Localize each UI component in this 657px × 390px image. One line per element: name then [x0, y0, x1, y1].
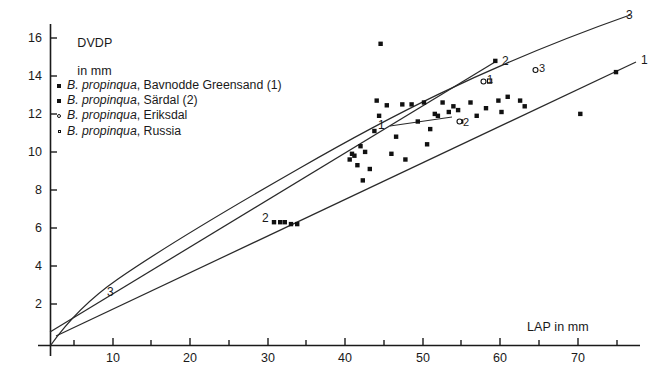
open-circle-icon [56, 108, 67, 123]
data-point [378, 42, 382, 46]
curve-label-3: 3 [107, 285, 114, 299]
x-axis-title: LAP in mm [527, 320, 589, 334]
x-tick-label-10: 10 [98, 351, 128, 365]
legend-label-eriksdal: B. propinqua, Eriksdal [67, 108, 187, 123]
data-point [523, 104, 527, 108]
data-point [428, 127, 432, 131]
data-point [372, 129, 376, 133]
y-tick-label-2: 2 [12, 297, 42, 311]
open-square-icon [56, 124, 67, 139]
data-point [518, 98, 522, 102]
data-point [403, 157, 407, 161]
data-point [506, 95, 510, 99]
data-point [355, 163, 359, 167]
data-point [416, 119, 420, 123]
data-point [295, 222, 299, 226]
x-tick-label-40: 40 [330, 351, 360, 365]
legend-item-eriksdal: B. propinqua, Eriksdal [56, 108, 282, 123]
data-point [283, 220, 287, 224]
data-point [578, 112, 582, 116]
x-tick-label-30: 30 [253, 351, 283, 365]
y-tick-label-4: 4 [12, 259, 42, 273]
legend-label-bavnodde-greensand: B. propinqua, Bavnodde Greensand (1) [67, 78, 282, 93]
data-point [451, 104, 455, 108]
data-point [363, 150, 367, 154]
legend-item-sardal: B. propinqua, Särdal (2) [56, 93, 282, 108]
y-tick-label-14: 14 [12, 69, 42, 83]
data-point [496, 98, 500, 102]
point-label-eriksdal-3: 3 [539, 62, 545, 74]
data-point [358, 144, 362, 148]
data-point [493, 59, 497, 63]
data-point [385, 103, 389, 107]
data-point [468, 100, 472, 104]
data-point [361, 178, 365, 182]
data-point [389, 152, 393, 156]
point-label-eriksdal-1: 1 [487, 73, 493, 85]
data-point [484, 106, 488, 110]
data-point [278, 220, 282, 224]
scatter-plot-figure: DVDP in mm LAP in mm 2 4 6 8 10 12 14 16… [0, 0, 657, 390]
filled-square-icon [56, 78, 67, 93]
legend-item-bavnodde-greensand: B. propinqua, Bavnodde Greensand (1) [56, 78, 282, 93]
data-point-open-circle [481, 79, 486, 84]
data-point [394, 135, 398, 139]
data-point [440, 100, 444, 104]
leader-line-1 [390, 117, 452, 126]
legend-species-name: B. propinqua [67, 124, 137, 138]
legend-item-russia: B. propinqua, Russia [56, 124, 282, 139]
data-point [289, 222, 293, 226]
x-tick-label-70: 70 [563, 351, 593, 365]
legend-label-russia: B. propinqua, Russia [67, 124, 181, 139]
data-point-open-circle [533, 68, 538, 73]
y-axis-title-line2: in mm [77, 64, 112, 78]
x-tick-label-50: 50 [408, 351, 438, 365]
legend-locality: , Russia [137, 124, 181, 138]
data-point [436, 114, 440, 118]
data-point [272, 220, 276, 224]
y-tick-label-12: 12 [12, 107, 42, 121]
axis-lines [38, 24, 640, 356]
point-label-eriksdal-2: 2 [463, 116, 469, 128]
legend-locality: , Särdal (2) [137, 93, 198, 107]
data-point [499, 110, 503, 114]
data-point [614, 70, 618, 74]
data-point-open-circle [457, 119, 462, 124]
x-tick-label-20: 20 [175, 351, 205, 365]
data-point [422, 100, 426, 104]
data-point [400, 102, 404, 106]
y-axis-title-line1: DVDP [77, 36, 112, 50]
data-point [348, 157, 352, 161]
data-point [352, 154, 356, 158]
data-points-open-circles [457, 68, 538, 125]
x-tick-label-60: 60 [485, 351, 515, 365]
data-point [409, 102, 413, 106]
y-tick-label-10: 10 [12, 145, 42, 159]
y-tick-label-8: 8 [12, 183, 42, 197]
legend-species-name: B. propinqua [67, 93, 137, 107]
data-point [456, 108, 460, 112]
legend-species-name: B. propinqua [67, 108, 137, 122]
data-point [425, 142, 429, 146]
filled-square-icon [56, 93, 67, 108]
legend-label-sardal: B. propinqua, Särdal (2) [67, 93, 198, 108]
curve-end-label-1: 1 [641, 53, 648, 67]
data-point [475, 114, 479, 118]
curve-label-1: 1 [378, 118, 385, 132]
legend: B. propinqua, Bavnodde Greensand (1) B. … [56, 78, 282, 139]
data-point [375, 98, 379, 102]
data-points-filled-squares [272, 42, 618, 227]
curve-label-2: 2 [262, 211, 269, 225]
x-axis-ticks [74, 338, 617, 346]
curve-end-label-2: 2 [502, 54, 509, 68]
y-tick-label-16: 16 [12, 31, 42, 45]
data-point [368, 167, 372, 171]
legend-species-name: B. propinqua [67, 78, 137, 92]
legend-locality: , Bavnodde Greensand (1) [137, 78, 282, 92]
data-point [447, 110, 451, 114]
curve-end-label-3: 3 [626, 8, 633, 22]
legend-locality: , Eriksdal [137, 108, 188, 122]
y-tick-label-6: 6 [12, 221, 42, 235]
